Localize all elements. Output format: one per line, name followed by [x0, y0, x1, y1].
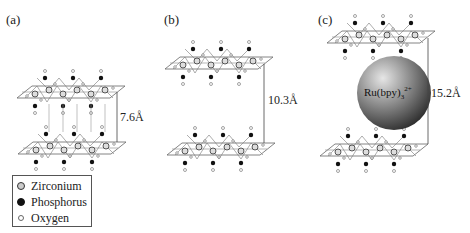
panel-a-structure [17, 70, 126, 171]
legend: Zirconium Phosphorus Oxygen [12, 175, 92, 227]
panel-label-c: (c) [318, 12, 332, 28]
distance-a: 7.6Å [120, 110, 144, 125]
phosphorus-circle-icon [17, 198, 25, 206]
panel-label-a: (a) [6, 12, 20, 28]
ru-complex-label: Ru(bpy)32+ [364, 85, 412, 101]
legend-item-phosphorus: Phosphorus [17, 194, 91, 210]
distance-b: 10.3Å [268, 93, 298, 108]
panel-b-structure [165, 41, 275, 172]
legend-item-zirconium: Zirconium [17, 178, 91, 194]
panel-label-b: (b) [164, 12, 179, 28]
zirconium-circle-icon [17, 182, 25, 190]
oxygen-circle-icon [18, 215, 24, 221]
legend-item-oxygen: Oxygen [17, 210, 91, 226]
distance-c: 15.2Å [431, 86, 461, 101]
